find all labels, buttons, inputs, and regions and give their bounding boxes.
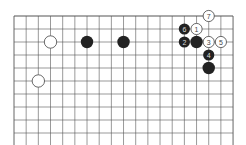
- go-board: 1234567: [0, 0, 246, 145]
- black-stone: 2: [179, 36, 190, 47]
- move-number: 7: [207, 13, 211, 20]
- move-number: 2: [182, 39, 186, 46]
- white-stone: [32, 75, 44, 87]
- black-stone: [81, 36, 93, 48]
- black-stone: 4: [203, 49, 214, 60]
- white-stone: [44, 36, 56, 48]
- white-stone: 3: [203, 36, 214, 47]
- move-number: 5: [219, 39, 223, 46]
- move-number: 4: [207, 52, 211, 59]
- black-stone: [190, 36, 202, 48]
- white-stone: 1: [191, 23, 202, 34]
- white-stone: 7: [203, 10, 214, 21]
- white-stone: 5: [215, 36, 226, 47]
- black-stone: [203, 62, 215, 74]
- move-number: 3: [207, 39, 211, 46]
- stones-layer: 1234567: [32, 10, 226, 87]
- move-number: 6: [182, 26, 186, 33]
- move-number: 1: [195, 26, 199, 33]
- black-stone: 6: [179, 23, 190, 34]
- board-grid: [14, 16, 233, 145]
- black-stone: [117, 36, 129, 48]
